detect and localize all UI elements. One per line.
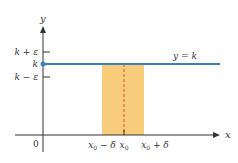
y-axis-arrow-icon xyxy=(40,26,46,33)
x-axis-label: x xyxy=(225,129,231,140)
label-x0: x0 xyxy=(120,140,129,151)
delta-band xyxy=(102,64,144,135)
label-k-plus-eps: k + ε xyxy=(14,47,38,57)
line-label-y-equals-k: y = k xyxy=(172,51,197,61)
label-k-minus-eps: k − ε xyxy=(14,72,38,82)
label-k: k xyxy=(33,59,38,69)
y-axis-label: y xyxy=(39,13,46,24)
origin-label: 0 xyxy=(33,139,39,149)
x-axis-arrow-icon xyxy=(213,132,220,138)
diagram-canvas: y x 0 k + ε k k − ε y = k x0 − δ x0 x0 +… xyxy=(0,0,238,163)
k-point xyxy=(41,62,46,67)
label-x0-plus-delta: x0 + δ xyxy=(141,140,169,151)
label-x0-minus-delta: x0 − δ xyxy=(88,140,116,151)
